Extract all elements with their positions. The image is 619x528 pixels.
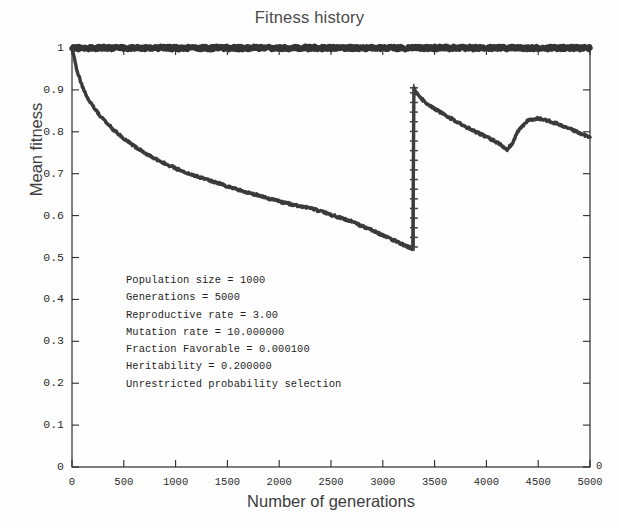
annotation-line: Unrestricted probability selection bbox=[126, 376, 341, 393]
y-axis-tick-label: 0.2 bbox=[20, 376, 64, 389]
plot-area bbox=[0, 0, 619, 528]
y-axis-tick-label: 0.8 bbox=[20, 125, 64, 138]
y-axis-tick-label: 1 bbox=[20, 41, 64, 54]
x-axis-tick-label: 5000 bbox=[560, 476, 619, 488]
series-line bbox=[72, 46, 590, 49]
plot-frame-box bbox=[72, 48, 590, 467]
annotation-line: Generations = 5000 bbox=[126, 289, 341, 306]
axis-frame bbox=[72, 48, 590, 467]
y-axis-tick-label: 0.9 bbox=[20, 83, 64, 96]
annotation-line: Reproductive rate = 3.00 bbox=[126, 307, 341, 324]
y-axis-tick-label: 0.1 bbox=[20, 418, 64, 431]
annotation-line: Population size = 1000 bbox=[126, 272, 341, 289]
data-series-layer bbox=[72, 46, 590, 251]
y-axis-tick-label: 0 bbox=[20, 460, 64, 473]
parameters-annotation-block: Population size = 1000Generations = 5000… bbox=[126, 272, 341, 393]
right-axis-tick-label: 0 bbox=[596, 460, 616, 472]
y-axis-tick-label: 0.5 bbox=[20, 251, 64, 264]
axis-tick-marks bbox=[72, 48, 590, 467]
annotation-line: Mutation rate = 10.000000 bbox=[126, 324, 341, 341]
fitness-history-chart-figure: Fitness history Mean fitness Number of g… bbox=[0, 0, 619, 528]
y-axis-tick-label: 0.6 bbox=[20, 209, 64, 222]
annotation-line: Heritability = 0.200000 bbox=[126, 358, 341, 375]
y-axis-tick-label: 0.7 bbox=[20, 167, 64, 180]
y-axis-tick-label: 0.4 bbox=[20, 292, 64, 305]
y-axis-tick-label: 0.3 bbox=[20, 334, 64, 347]
annotation-line: Fraction Favorable = 0.000100 bbox=[126, 341, 341, 358]
series-line bbox=[72, 48, 590, 250]
